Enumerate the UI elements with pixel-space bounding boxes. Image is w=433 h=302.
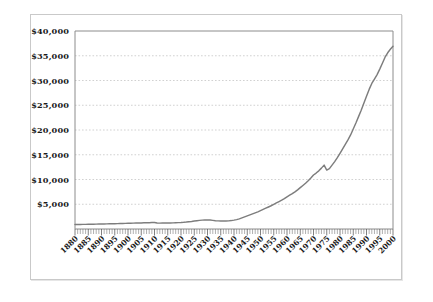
y-axis-tick-label: $30,000 [31,76,69,86]
y-axis-tick-label: $35,000 [31,51,69,61]
chart-frame: $40,000$35,000$30,000$25,000$20,000$15,0… [30,14,402,280]
y-axis-tick-label: $20,000 [31,125,69,135]
y-axis-tick-label: $25,000 [31,100,69,110]
line-chart: $40,000$35,000$30,000$25,000$20,000$15,0… [31,15,401,279]
data-series-line [75,46,393,224]
y-axis-tick-label: $5,000 [37,199,69,209]
y-axis-tick-label: $10,000 [31,175,69,185]
y-axis-tick-label: $40,000 [31,26,69,36]
y-axis-tick-label: $15,000 [31,150,69,160]
